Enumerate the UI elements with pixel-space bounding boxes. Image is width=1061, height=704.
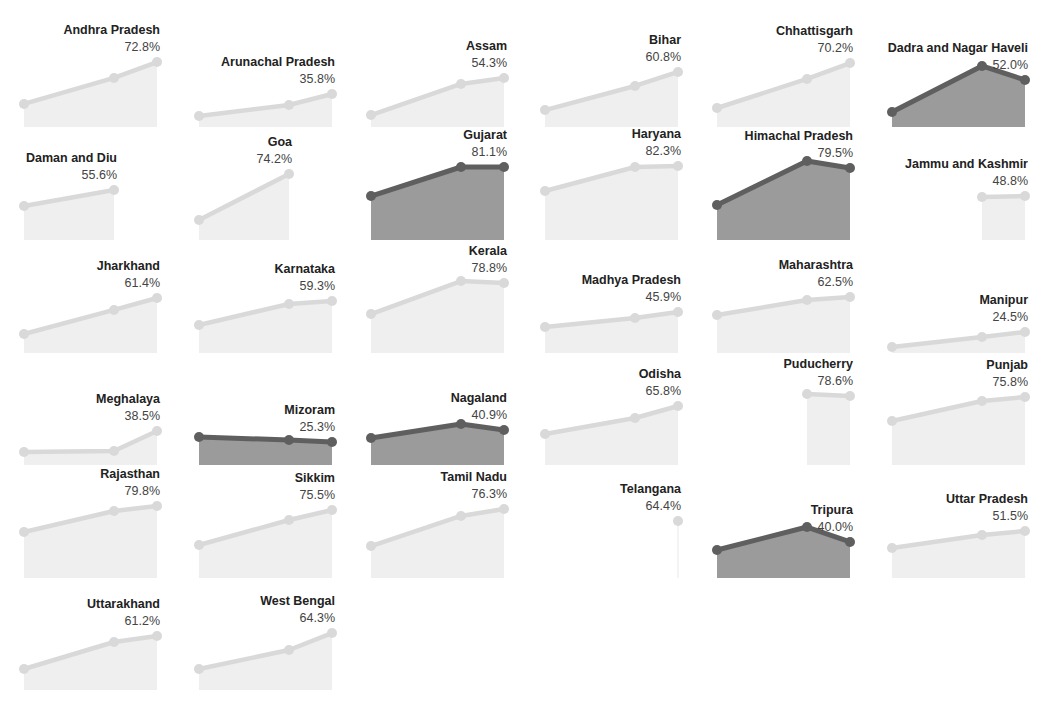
data-point[interactable]	[1020, 526, 1030, 536]
data-point[interactable]	[845, 163, 855, 173]
data-point[interactable]	[19, 329, 29, 339]
data-point[interactable]	[284, 645, 294, 655]
data-point[interactable]	[712, 545, 722, 555]
data-point[interactable]	[284, 299, 294, 309]
data-point[interactable]	[499, 73, 509, 83]
data-point[interactable]	[109, 446, 119, 456]
data-point[interactable]	[152, 631, 162, 641]
data-point[interactable]	[152, 293, 162, 303]
data-point[interactable]	[1020, 191, 1030, 201]
data-point[interactable]	[802, 156, 812, 166]
data-point[interactable]	[152, 426, 162, 436]
data-point[interactable]	[327, 89, 337, 99]
data-point[interactable]	[1020, 75, 1030, 85]
data-point[interactable]	[887, 543, 897, 553]
data-point[interactable]	[327, 505, 337, 515]
data-point[interactable]	[977, 61, 987, 71]
data-point[interactable]	[630, 81, 640, 91]
data-point[interactable]	[194, 215, 204, 225]
data-point[interactable]	[194, 664, 204, 674]
data-point[interactable]	[19, 527, 29, 537]
data-point[interactable]	[802, 522, 812, 532]
data-point[interactable]	[366, 309, 376, 319]
data-point[interactable]	[366, 191, 376, 201]
data-point[interactable]	[1020, 327, 1030, 337]
data-point[interactable]	[802, 389, 812, 399]
data-point[interactable]	[456, 511, 466, 521]
data-point[interactable]	[845, 58, 855, 68]
data-point[interactable]	[712, 200, 722, 210]
data-point[interactable]	[630, 313, 640, 323]
data-point[interactable]	[673, 401, 683, 411]
data-point[interactable]	[887, 416, 897, 426]
data-point[interactable]	[887, 107, 897, 117]
data-point[interactable]	[109, 73, 119, 83]
data-point[interactable]	[673, 161, 683, 171]
data-point[interactable]	[194, 320, 204, 330]
value-label: 70.2%	[818, 41, 853, 55]
panel-mizoram: Mizoram25.3%	[194, 403, 337, 465]
data-point[interactable]	[366, 541, 376, 551]
panel-puducherry: Puducherry78.6%	[784, 357, 855, 465]
data-point[interactable]	[327, 628, 337, 638]
data-point[interactable]	[284, 169, 294, 179]
data-point[interactable]	[109, 506, 119, 516]
data-point[interactable]	[845, 537, 855, 547]
data-point[interactable]	[673, 67, 683, 77]
data-point[interactable]	[284, 435, 294, 445]
data-point[interactable]	[802, 295, 812, 305]
panel-rajasthan: Rajasthan79.8%	[19, 467, 162, 578]
data-point[interactable]	[499, 162, 509, 172]
data-point[interactable]	[456, 419, 466, 429]
data-point[interactable]	[673, 516, 683, 526]
data-point[interactable]	[802, 74, 812, 84]
data-point[interactable]	[456, 162, 466, 172]
data-point[interactable]	[19, 201, 29, 211]
data-point[interactable]	[630, 413, 640, 423]
state-name-label: Karnataka	[275, 262, 336, 276]
area-fill	[24, 298, 157, 353]
data-point[interactable]	[977, 396, 987, 406]
data-point[interactable]	[499, 278, 509, 288]
data-point[interactable]	[109, 305, 119, 315]
data-point[interactable]	[673, 307, 683, 317]
data-point[interactable]	[19, 664, 29, 674]
data-point[interactable]	[845, 391, 855, 401]
data-point[interactable]	[152, 501, 162, 511]
data-point[interactable]	[327, 296, 337, 306]
data-point[interactable]	[194, 540, 204, 550]
data-point[interactable]	[327, 437, 337, 447]
data-point[interactable]	[712, 103, 722, 113]
data-point[interactable]	[109, 185, 119, 195]
value-label: 78.6%	[818, 374, 853, 388]
state-name-label: Madhya Pradesh	[582, 273, 681, 287]
data-point[interactable]	[152, 57, 162, 67]
data-point[interactable]	[284, 100, 294, 110]
data-point[interactable]	[540, 322, 550, 332]
data-point[interactable]	[977, 332, 987, 342]
data-point[interactable]	[499, 504, 509, 514]
data-point[interactable]	[456, 79, 466, 89]
data-point[interactable]	[194, 432, 204, 442]
data-point[interactable]	[366, 433, 376, 443]
data-point[interactable]	[194, 111, 204, 121]
data-point[interactable]	[977, 192, 987, 202]
data-point[interactable]	[284, 515, 294, 525]
data-point[interactable]	[366, 110, 376, 120]
state-name-label: Telangana	[620, 482, 682, 496]
data-point[interactable]	[712, 310, 722, 320]
data-point[interactable]	[977, 530, 987, 540]
data-point[interactable]	[499, 425, 509, 435]
data-point[interactable]	[630, 162, 640, 172]
data-point[interactable]	[109, 637, 119, 647]
data-point[interactable]	[540, 186, 550, 196]
data-point[interactable]	[540, 105, 550, 115]
data-point[interactable]	[887, 342, 897, 352]
data-point[interactable]	[1020, 392, 1030, 402]
data-point[interactable]	[19, 99, 29, 109]
data-point[interactable]	[540, 429, 550, 439]
data-point[interactable]	[19, 447, 29, 457]
data-point[interactable]	[845, 292, 855, 302]
data-point[interactable]	[456, 276, 466, 286]
panel-bihar: Bihar60.8%	[540, 33, 683, 127]
